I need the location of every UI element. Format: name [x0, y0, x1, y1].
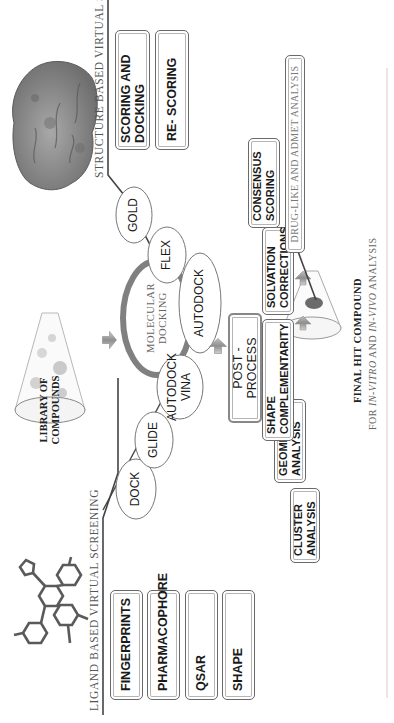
analysis-label-line2: ANALYSIS — [305, 489, 318, 556]
docking-label-line1: MOLECULAR — [145, 283, 157, 353]
admet-label: DRUG-LIKE AND ADMET ANALYSIS — [289, 66, 301, 243]
program-glide: GLIDE — [144, 412, 164, 468]
admet-analysis-box: DRUG-LIKE AND ADMET ANALYSIS — [285, 55, 305, 253]
method-qsar: QSAR — [185, 590, 218, 700]
method-label: PHARMACOPHORE — [156, 573, 170, 691]
analysis-consensus-scoring: CONSENSUS SCORING — [248, 138, 280, 228]
program-label: DOCK — [129, 472, 143, 507]
analysis-shape-complementarity: SHAPE COMPLEMENTARITY — [262, 319, 294, 441]
analysis-label-line1: SHAPE — [265, 320, 278, 434]
structure-section-heading: STRUCTURE BASED VIRTUAL SCREENING — [93, 0, 105, 178]
analysis-label-line2: SCORING — [264, 139, 277, 221]
analysis-label-line1: CLUSTER — [292, 489, 305, 556]
program-label-line2: VINA — [180, 373, 194, 401]
program-label: GOLD — [127, 198, 141, 232]
program-dock: DOCK — [126, 459, 146, 519]
docking-label-line2: DOCKING — [157, 292, 169, 344]
program-autodock-vina: AUTODOCK VINA — [162, 355, 198, 419]
analysis-label-line1: SOLVATION — [265, 228, 278, 308]
method-shape: SHAPE — [222, 590, 255, 700]
library-label-line2: COMPOUNDS — [50, 376, 62, 445]
method-label-line1: SCORING AND — [119, 31, 133, 143]
hit-dot — [305, 297, 323, 309]
analysis-cluster: CLUSTER ANALYSIS — [290, 488, 320, 563]
analysis-label-line1: CONSENSUS — [251, 139, 264, 221]
program-label: GLIDE — [147, 422, 161, 458]
post-process-box: POST - PROCESS — [228, 313, 262, 423]
subtitle-in-vivo: IN-VIVO — [367, 292, 378, 331]
method-label-line2: DOCKING — [133, 31, 147, 143]
subtitle-in-vitro: IN-VITRO — [367, 360, 378, 406]
method-scoring-and-docking: SCORING AND DOCKING — [115, 30, 150, 150]
program-label-line1: AUTODOCK — [166, 353, 180, 421]
subtitle-and: AND — [367, 332, 378, 361]
final-hit-title: FINAL HIT COMPOUND — [352, 278, 363, 403]
analysis-label-line2: COMPLEMENTARITY — [278, 320, 291, 434]
subtitle-prefix: FOR — [367, 406, 378, 430]
final-hit-subtitle: FOR IN-VITRO AND IN-VIVO ANALYSIS — [367, 238, 378, 430]
library-of-compounds-label: LIBRARY OF COMPOUNDS — [28, 370, 72, 450]
method-label: QSAR — [194, 655, 208, 691]
program-label: AUTODOCK — [193, 269, 207, 337]
method-pharmacophore: PHARMACOPHORE — [147, 590, 180, 700]
method-fingerprints: FINGERPRINTS — [110, 590, 143, 700]
library-label-line1: LIBRARY OF — [38, 378, 50, 443]
subtitle-suffix: ANALYSIS — [367, 238, 378, 293]
protein-structure-icon — [13, 61, 98, 189]
method-re-scoring: RE- SCORING — [155, 30, 189, 150]
program-gold: GOLD — [124, 187, 144, 243]
method-label: SHAPE — [231, 648, 245, 691]
program-flex: FLEX — [157, 227, 177, 283]
arrow-library-to-docking — [103, 332, 117, 349]
program-label: FLEX — [160, 240, 174, 270]
post-process-label: POST - PROCESS — [231, 315, 260, 421]
virtual-screening-diagram: LIGAND BASED VIRTUAL SCREENING STRUCTURE… — [0, 0, 394, 723]
ligand-molecule-icon — [14, 557, 88, 643]
method-label: FINGERPRINTS — [119, 598, 133, 691]
program-autodock: AUTODOCK — [190, 253, 210, 353]
ligand-section-heading: LIGAND BASED VIRTUAL SCREENING — [88, 489, 100, 711]
method-label: RE- SCORING — [165, 58, 179, 141]
